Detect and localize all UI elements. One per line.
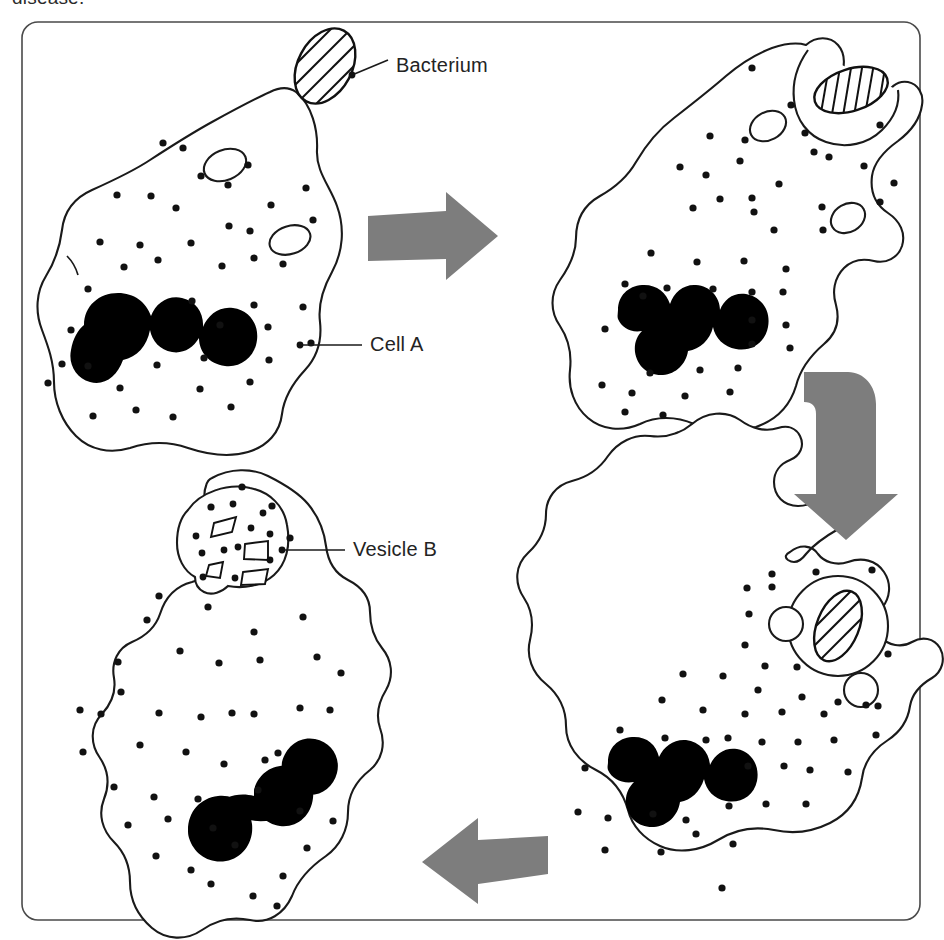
cell-a-membrane xyxy=(37,88,341,455)
fragment xyxy=(206,562,223,578)
stage-4-digested xyxy=(76,470,391,937)
lysosome xyxy=(769,607,803,641)
leader-dot xyxy=(349,72,356,79)
stage-1-free-bacterium xyxy=(37,0,392,455)
figure-root: disease. xyxy=(0,0,944,940)
label-bacterium: Bacterium xyxy=(349,54,488,78)
stage-3-vesicle-formed xyxy=(517,414,943,892)
stage-2-engulfing xyxy=(553,38,923,438)
lysosome xyxy=(844,673,878,707)
leader-dot xyxy=(297,342,304,349)
bacterium-label: Bacterium xyxy=(396,54,488,76)
phagocytosis-diagram: Bacterium Cell A Vesicle B xyxy=(0,0,944,940)
arrow-bottom-left xyxy=(422,818,548,904)
cell-a-label: Cell A xyxy=(370,333,424,355)
arrow-top-right xyxy=(368,192,498,280)
leader-line xyxy=(352,60,388,75)
fragment xyxy=(241,569,268,585)
fragment xyxy=(244,541,268,560)
leader-dot xyxy=(279,547,286,554)
vesicle-b-label: Vesicle B xyxy=(353,538,437,560)
